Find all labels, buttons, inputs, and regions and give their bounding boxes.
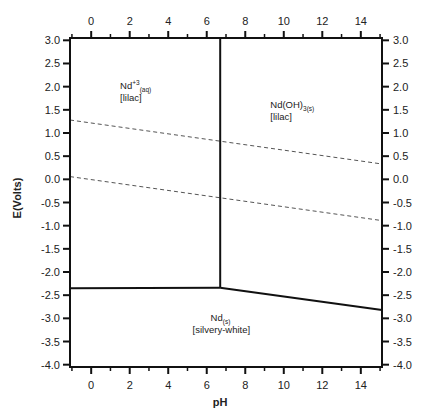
series-line-0	[70, 120, 382, 164]
x-tick-label-top: 8	[242, 15, 248, 27]
y-tick-label-right: 1.0	[393, 127, 408, 139]
x-tick-label-bottom: 2	[127, 379, 133, 391]
y-tick-label-right: 0.0	[393, 173, 408, 185]
y-tick-label-left: -3.0	[41, 312, 60, 324]
y-tick-label-right: 3.0	[393, 34, 408, 46]
y-tick-label-right: -3.5	[393, 336, 412, 348]
series-line-4	[220, 288, 382, 310]
pourbaix-chart: 00224466881010121214143.03.02.52.52.02.0…	[0, 0, 428, 415]
y-tick-label-right: 2.5	[393, 57, 408, 69]
y-tick-label-left: -2.0	[41, 266, 60, 278]
x-tick-label-top: 2	[127, 15, 133, 27]
y-tick-label-left: 3.0	[45, 34, 60, 46]
y-tick-label-left: -1.5	[41, 243, 60, 255]
x-tick-label-top: 0	[88, 15, 94, 27]
x-tick-label-bottom: 12	[316, 379, 328, 391]
y-axis-title: E(Volts)	[11, 177, 23, 218]
y-tick-label-left: 2.5	[45, 57, 60, 69]
region-label-color: [lilac]	[270, 111, 292, 122]
y-tick-label-right: 1.5	[393, 104, 408, 116]
x-tick-label-top: 4	[165, 15, 171, 27]
x-tick-label-bottom: 10	[278, 379, 290, 391]
region-label-color: [silvery-white]	[193, 324, 251, 335]
y-tick-label-left: -4.0	[41, 359, 60, 371]
y-tick-label-right: -0.5	[393, 197, 412, 209]
y-tick-label-right: -2.0	[393, 266, 412, 278]
y-tick-label-right: -2.5	[393, 289, 412, 301]
y-tick-label-right: 0.5	[393, 150, 408, 162]
y-tick-label-left: -3.5	[41, 336, 60, 348]
x-tick-label-bottom: 8	[242, 379, 248, 391]
x-tick-label-bottom: 6	[204, 379, 210, 391]
region-label-color: [lilac]	[120, 92, 142, 103]
y-tick-label-left: 1.0	[45, 127, 60, 139]
y-tick-label-left: 2.0	[45, 81, 60, 93]
y-tick-label-right: 2.0	[393, 81, 408, 93]
x-tick-label-top: 14	[355, 15, 367, 27]
x-tick-label-bottom: 0	[88, 379, 94, 391]
series-line-1	[70, 177, 382, 221]
y-tick-label-left: -2.5	[41, 289, 60, 301]
y-tick-label-right: -3.0	[393, 312, 412, 324]
series-layer	[70, 38, 382, 310]
x-tick-label-top: 6	[204, 15, 210, 27]
y-tick-label-left: 0.0	[45, 173, 60, 185]
x-tick-label-top: 12	[316, 15, 328, 27]
x-tick-label-top: 10	[278, 15, 290, 27]
y-tick-label-left: -0.5	[41, 197, 60, 209]
y-tick-label-left: -1.0	[41, 220, 60, 232]
y-tick-label-right: -1.0	[393, 220, 412, 232]
y-tick-label-right: -1.5	[393, 243, 412, 255]
x-tick-label-bottom: 4	[165, 379, 171, 391]
x-axis-title: pH	[213, 396, 228, 408]
y-tick-label-left: 1.5	[45, 104, 60, 116]
y-tick-label-left: 0.5	[45, 150, 60, 162]
x-tick-label-bottom: 14	[355, 379, 367, 391]
y-tick-label-right: -4.0	[393, 359, 412, 371]
